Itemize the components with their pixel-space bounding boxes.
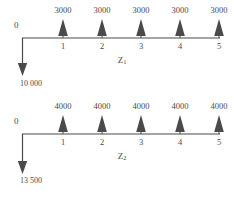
inflow-arrowhead-2	[97, 115, 107, 132]
origin-label: 0	[14, 21, 19, 30]
period-label-3: 3	[139, 42, 143, 51]
inflow-arrowhead-2	[97, 19, 107, 36]
inflow-value-label-4: 3000	[172, 6, 189, 15]
series-label-z1-base: Z	[118, 55, 124, 65]
inflow-arrowhead-4	[175, 115, 185, 132]
inflow-value-label-2: 3000	[94, 6, 111, 15]
inflow-arrowhead-1	[58, 115, 68, 132]
inflow-value-label-1: 3000	[55, 6, 72, 15]
inflow-arrowhead-5	[214, 115, 224, 132]
period-label-1: 1	[61, 42, 65, 51]
series-label-z2-subscript: 2	[123, 154, 126, 161]
inflow-value-label-4: 4000	[172, 102, 189, 111]
inflow-arrowhead-1	[58, 19, 68, 36]
initial-outflow-label: 10 000	[20, 80, 42, 88]
period-label-4: 4	[178, 138, 182, 147]
outflow-arrowhead	[18, 63, 27, 76]
period-label-4: 4	[178, 42, 182, 51]
inflow-value-label-3: 4000	[133, 102, 150, 111]
inflow-arrowhead-5	[214, 19, 224, 36]
inflow-value-label-5: 4000	[211, 102, 228, 111]
inflow-value-label-1: 4000	[55, 102, 72, 111]
period-label-5: 5	[217, 138, 221, 147]
inflow-arrowhead-3	[136, 115, 146, 132]
outflow-arrowhead	[18, 161, 27, 174]
period-label-2: 2	[100, 138, 104, 147]
cash-flow-diagrams: 3000 3000 3000 3000 3000 0 1 2 3 4 5 Z1 …	[0, 0, 234, 202]
series-label-z2-base: Z	[118, 151, 124, 161]
period-label-1: 1	[61, 138, 65, 147]
inflow-value-label-5: 3000	[211, 6, 228, 15]
cash-flow-diagram-z1: 3000 3000 3000 3000 3000 0 1 2 3 4 5 Z1 …	[0, 0, 234, 101]
series-label-z2: Z2	[118, 152, 127, 161]
inflow-value-label-3: 3000	[133, 6, 150, 15]
series-label-z1-subscript: 1	[123, 58, 126, 65]
origin-label: 0	[14, 117, 19, 126]
initial-outflow-label: 13 500	[20, 177, 42, 185]
series-label-z1: Z1	[118, 56, 127, 65]
inflow-value-label-2: 4000	[94, 102, 111, 111]
period-label-3: 3	[139, 138, 143, 147]
inflow-arrowhead-4	[175, 19, 185, 36]
cash-flow-diagram-z2: 4000 4000 4000 4000 4000 0 1 2 3 4 5 Z2 …	[0, 101, 234, 202]
inflow-arrowhead-3	[136, 19, 146, 36]
period-label-2: 2	[100, 42, 104, 51]
period-label-5: 5	[217, 42, 221, 51]
